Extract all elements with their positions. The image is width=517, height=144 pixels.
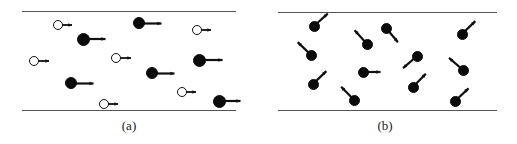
- panel-b: (b): [0, 0, 517, 144]
- filled-particle-marker: [457, 29, 468, 40]
- two-panel-particle-diagram: (a)(b): [0, 0, 517, 144]
- filled-particle-marker: [349, 95, 360, 106]
- filled-particle-marker: [408, 82, 419, 93]
- filled-particle-marker: [450, 96, 461, 107]
- filled-particle-marker: [308, 79, 319, 90]
- panel-label-b: (b): [365, 118, 405, 134]
